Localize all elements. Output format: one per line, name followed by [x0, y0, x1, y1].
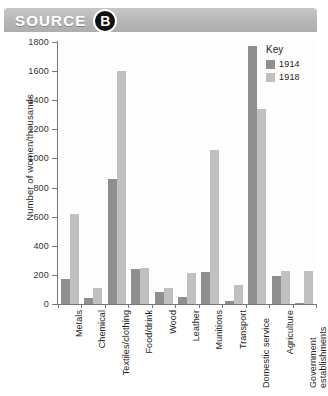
bar-1918 — [164, 288, 173, 304]
y-axis-ticks: 020040060080010001200140016001800 — [0, 0, 57, 396]
bar-group — [61, 42, 79, 304]
y-axis-tick-label: 200 — [33, 270, 49, 280]
bar-1918 — [257, 109, 266, 304]
bar-group — [248, 42, 266, 304]
bar-1918 — [210, 150, 219, 304]
y-axis-tick-label: 1800 — [28, 37, 49, 47]
x-axis-label: Agriculture — [285, 310, 295, 354]
y-axis-tick-label: 0 — [44, 299, 49, 309]
bar-1914 — [131, 269, 140, 304]
x-axis-label: Government establishments — [308, 310, 328, 388]
x-axis-tick — [58, 304, 59, 308]
x-axis-tick — [81, 304, 82, 308]
bar-group — [295, 42, 313, 304]
y-axis-tick-label: 800 — [33, 183, 49, 193]
bar-group — [131, 42, 149, 304]
bar-1914 — [272, 276, 281, 304]
bar-group — [108, 42, 126, 304]
bar-1914 — [108, 179, 117, 304]
x-axis-tick — [128, 304, 129, 308]
bar-1914 — [248, 46, 257, 304]
bar-1918 — [117, 71, 126, 304]
bar-1914 — [155, 292, 164, 304]
y-axis-tick-label: 1600 — [28, 66, 49, 76]
bar-1914 — [225, 301, 234, 304]
x-axis-tick — [246, 304, 247, 308]
bar-1914 — [178, 297, 187, 304]
bar-1918 — [70, 214, 79, 304]
bar-group — [201, 42, 219, 304]
bar-1918 — [93, 288, 102, 304]
bar-1918 — [281, 271, 290, 304]
x-axis-label: Metals — [74, 310, 84, 337]
bar-1918 — [234, 285, 243, 304]
bar-1918 — [187, 273, 196, 304]
x-axis-label: Textiles/clothing — [121, 310, 131, 375]
bar-group — [178, 42, 196, 304]
bar-1914 — [61, 279, 70, 304]
bar-1914 — [84, 298, 93, 304]
x-axis-tick — [293, 304, 294, 308]
bar-1918 — [304, 271, 313, 304]
x-axis-line — [57, 304, 317, 305]
x-axis-label: Leather — [191, 310, 201, 341]
x-axis-tick — [316, 304, 317, 308]
bar-group — [155, 42, 173, 304]
bar-group — [272, 42, 290, 304]
bar-group — [84, 42, 102, 304]
y-axis-tick-label: 1200 — [28, 124, 49, 134]
x-axis-tick — [152, 304, 153, 308]
x-axis-tick — [222, 304, 223, 308]
source-badge: B — [93, 9, 117, 33]
x-axis-label: Transport — [238, 310, 248, 349]
x-axis-label: Domestic service — [261, 310, 271, 388]
bar-group — [225, 42, 243, 304]
y-axis-tick-label: 400 — [33, 241, 49, 251]
x-axis-label: Munitions — [214, 310, 224, 349]
x-axis-tick — [175, 304, 176, 308]
x-axis-tick — [269, 304, 270, 308]
y-axis-tick-label: 1000 — [28, 153, 49, 163]
x-axis-label: Chemical — [97, 310, 107, 348]
y-axis-tick-label: 600 — [33, 212, 49, 222]
bar-1918 — [140, 268, 149, 304]
x-axis-label: Food/drink — [144, 310, 154, 354]
x-axis-tick — [105, 304, 106, 308]
y-axis-tick-label: 1400 — [28, 95, 49, 105]
bar-1914 — [295, 303, 304, 304]
bar-1914 — [201, 272, 210, 304]
x-axis-label: Wood — [168, 310, 178, 334]
x-axis-tick — [199, 304, 200, 308]
